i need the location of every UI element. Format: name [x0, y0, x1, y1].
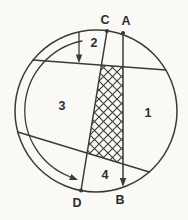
- point-C-dot: [105, 29, 109, 33]
- region2-arrowhead-icon: [76, 55, 82, 64]
- label-C: C: [100, 13, 109, 27]
- label-region-4: 4: [102, 168, 109, 182]
- arrowhead-B-icon: [120, 178, 126, 187]
- label-region-2: 2: [91, 36, 98, 50]
- label-D: D: [72, 196, 81, 210]
- hatched-region: [87, 65, 123, 164]
- figure-container: C A D B 1 2 3 4: [0, 0, 188, 220]
- label-region-1: 1: [145, 106, 152, 120]
- upper-chord: [33, 60, 166, 70]
- point-A-dot: [121, 31, 125, 35]
- label-B: B: [115, 193, 124, 207]
- curved-arrowhead-icon: [69, 174, 78, 180]
- circle-diagram: C A D B 1 2 3 4: [0, 0, 188, 220]
- label-region-3: 3: [59, 99, 66, 113]
- point-D-dot: [79, 188, 83, 192]
- label-A: A: [121, 14, 130, 28]
